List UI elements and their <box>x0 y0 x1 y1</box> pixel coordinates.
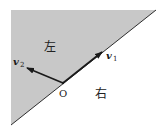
origin-label: O <box>59 88 67 99</box>
origin-point <box>62 82 64 84</box>
left-region-label: 左 <box>44 39 56 54</box>
svg-text:v: v <box>106 50 112 61</box>
vector-v1-label: v 1 <box>106 50 117 63</box>
svg-text:1: 1 <box>113 55 117 63</box>
right-region-label: 右 <box>95 86 107 101</box>
half-plane-diagram: 左 右 O v 1 v 2 <box>0 0 166 135</box>
svg-text:2: 2 <box>20 61 24 69</box>
svg-text:v: v <box>13 56 19 67</box>
